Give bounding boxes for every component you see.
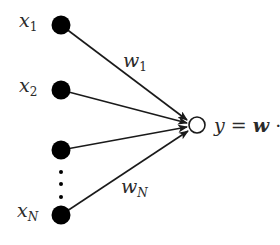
input-node-x3 <box>52 141 71 160</box>
ellipsis-dot <box>59 170 63 174</box>
output-node <box>189 117 205 133</box>
equation-dot: · <box>275 114 280 136</box>
label-x2: x2 <box>19 76 37 98</box>
label-w1: w1 <box>123 51 147 73</box>
input-node-x2 <box>52 81 71 100</box>
output-equation: y = w · x <box>214 114 280 136</box>
ellipsis-dot <box>59 182 63 186</box>
label-xN: xN <box>17 201 38 223</box>
ellipsis-dot <box>59 195 63 199</box>
edge-x3-to-output <box>61 127 187 150</box>
equation-y: y <box>214 114 225 136</box>
input-node-x1 <box>52 16 71 35</box>
input-node-xN <box>52 206 71 225</box>
equation-w: w <box>253 114 269 136</box>
label-x1: x1 <box>19 11 37 33</box>
edge-xN-to-output <box>61 131 188 215</box>
label-wN: wN <box>121 177 148 199</box>
equation-equals: = <box>231 114 247 136</box>
